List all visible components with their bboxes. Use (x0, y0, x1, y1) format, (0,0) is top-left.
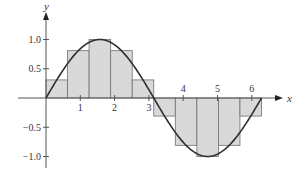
riemann-rectangle (111, 51, 133, 98)
y-tick-label: −0.5 (23, 122, 41, 133)
x-tick-label: 4 (181, 83, 186, 94)
x-tick-label: 5 (215, 83, 220, 94)
x-axis-label: x (286, 92, 292, 104)
y-tick-label: 0.5 (29, 63, 42, 74)
x-tick-label: 2 (112, 102, 117, 113)
y-axis-label: y (43, 0, 49, 12)
y-tick-label: −1.0 (23, 151, 41, 162)
riemann-rectangle (218, 98, 240, 145)
riemann-rectangle (197, 98, 219, 157)
x-tick-label: 6 (249, 83, 254, 94)
x-axis-arrow-icon (275, 95, 283, 101)
riemann-rectangle (154, 98, 176, 116)
y-axis-arrow-icon (43, 12, 49, 20)
riemann-rectangle (89, 40, 111, 99)
x-tick-label: 3 (146, 102, 151, 113)
x-tick-label: 1 (78, 102, 83, 113)
riemann-rectangle (68, 51, 90, 98)
riemann-sum-chart: 1234561.00.5−0.5−1.0xy (0, 0, 300, 177)
riemann-rectangle (175, 98, 197, 145)
y-tick-label: 1.0 (29, 34, 42, 45)
riemann-rectangle (132, 80, 154, 98)
riemann-rectangle (46, 80, 68, 98)
riemann-rectangle (240, 98, 262, 116)
